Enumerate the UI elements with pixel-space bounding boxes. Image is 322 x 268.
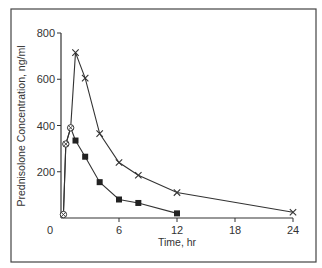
chart: 20040060080006121824 Time, hr Prednisolo… <box>0 0 322 268</box>
chart-frame <box>11 9 316 262</box>
square-marker-icon <box>174 210 180 216</box>
y-axis-label: Prednisolone Concentration, ng/ml <box>15 45 27 206</box>
x-tick-label: 18 <box>229 224 241 236</box>
square-marker-icon <box>135 200 141 206</box>
y-tick-label: 200 <box>37 166 55 178</box>
x-tick-label: 6 <box>116 224 122 236</box>
x-axis-label: Time, hr <box>158 236 197 248</box>
x-tick-label: 0 <box>47 224 53 236</box>
x-tick-label: 12 <box>171 224 183 236</box>
y-tick-label: 600 <box>37 73 55 85</box>
square-marker-icon <box>97 179 103 185</box>
y-tick-label: 800 <box>37 27 55 39</box>
square-marker-icon <box>73 138 79 144</box>
square-marker-icon <box>82 154 88 160</box>
square-marker-icon <box>116 197 122 203</box>
y-tick-label: 400 <box>37 120 55 132</box>
x-tick-label: 24 <box>287 224 299 236</box>
